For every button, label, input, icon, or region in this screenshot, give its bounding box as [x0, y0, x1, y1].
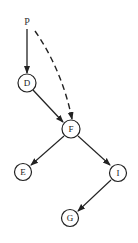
- node-f-label: F: [68, 124, 73, 134]
- edge-f-e: [31, 136, 64, 165]
- node-g: G: [62, 210, 79, 227]
- edge-i-g: [78, 180, 111, 211]
- node-f: F: [62, 120, 80, 138]
- edge-f-i: [78, 136, 110, 165]
- node-d-label: D: [24, 78, 31, 88]
- tree-diagram: P D F E I G: [0, 0, 138, 243]
- root-label-p: P: [24, 16, 30, 27]
- node-g-label: G: [67, 213, 74, 223]
- node-i: I: [110, 165, 127, 182]
- node-e: E: [15, 164, 32, 181]
- node-i-label: I: [117, 168, 120, 178]
- node-d: D: [18, 74, 36, 92]
- edge-d-f: [33, 90, 63, 122]
- edge-p-f-dashed: [35, 31, 72, 119]
- node-e-label: E: [20, 167, 26, 177]
